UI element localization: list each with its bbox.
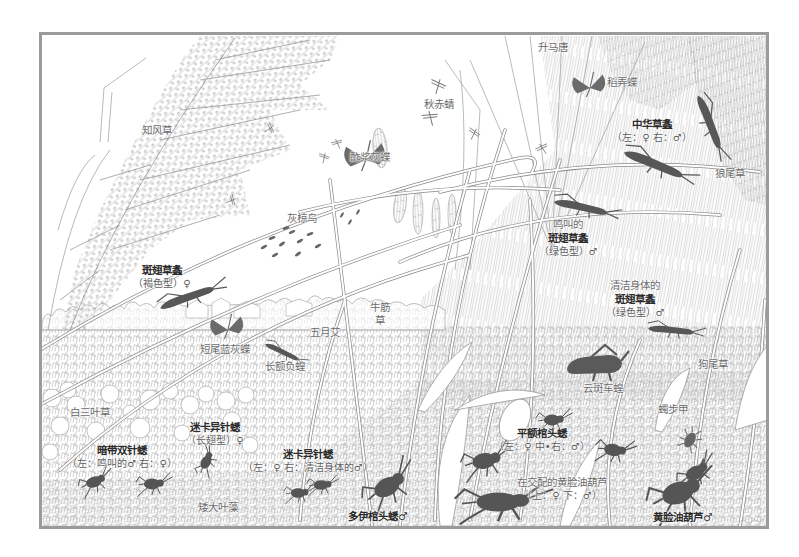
grassland-illustration	[0, 0, 799, 557]
seed-spikes	[371, 127, 456, 238]
label-daiyezao: 矮大叶藻	[198, 500, 238, 514]
label-daonongdie: 稻弄蝶	[607, 75, 637, 89]
species-qualifier: 清洁身体的	[606, 278, 665, 292]
label-niujincao: 牛筋草	[368, 301, 392, 327]
label-pinge-guantouxi: 平额棺头蟋 （左：♀ 中•右：♂）	[494, 426, 589, 454]
species-name: 中华草螽	[612, 117, 691, 131]
dragonfly-icon	[421, 110, 439, 128]
label-gouweicao: 狗尾草	[698, 357, 728, 371]
label-langweicao: 狼尾草	[715, 166, 745, 180]
label-cleaning-banchi-caozhong: 清洁身体的 斑翅草螽 （绿色型）♂	[606, 278, 665, 320]
label-change-fuhuang: 长额负蝗	[265, 359, 305, 373]
species-note: （左：♀ 中•右：♂）	[494, 440, 589, 454]
label-qiuchiqing: 秋赤蜻	[424, 97, 454, 111]
label-mika-longwing: 迷卡异针蟋 （长翅型）♀	[186, 420, 243, 448]
species-note: （左：♀ 右：清洁身体的♂）	[243, 461, 372, 475]
plume-zhifengcao	[48, 36, 340, 330]
label-zhujiang-huidie: 酢浆灰蝶	[350, 150, 390, 164]
species-name: 多伊棺头蟋♂	[348, 509, 407, 523]
dragonfly-icon	[427, 77, 447, 97]
species-name: 斑翅草螽	[539, 231, 598, 245]
dragonfly-icon	[317, 151, 331, 164]
label-shengmatang: 升马唐	[538, 40, 568, 54]
species-name: 黄脸油葫芦♂	[653, 510, 712, 524]
species-note: （长翅型）♀	[186, 434, 243, 448]
species-name: 在交配的黄脸油葫芦	[517, 475, 607, 489]
label-andai-shuangzhenxi: 暗带双针蟋 （左：鸣叫的♂ 右：♀）	[67, 443, 176, 471]
species-note: （褐色型）♀	[133, 277, 190, 291]
species-note: （左：♀ 右：♂）	[612, 131, 691, 145]
species-name: 斑翅草螽	[606, 292, 665, 306]
label-huanglian-youhulu: 黄脸油葫芦♂	[653, 510, 712, 524]
species-name: 迷卡异针蟋	[186, 420, 243, 434]
label-duoyi-guantouxi: 多伊棺头蟋♂	[348, 509, 407, 523]
species-note: （上：♀ 下：♂）	[517, 489, 607, 503]
dragonfly-icon	[330, 137, 344, 151]
species-name: 暗带双针蟋	[67, 443, 176, 457]
label-yunban-chehuang: 云斑车蝗	[583, 381, 623, 395]
label-duanwei-lanhuidie: 短尾蓝灰蝶	[200, 342, 250, 356]
label-bujia: 蠋步甲	[658, 402, 688, 416]
species-note: （绿色型）♂	[606, 306, 665, 320]
species-qualifier: 鸣叫的	[539, 217, 598, 231]
dragonfly-icon	[534, 141, 551, 158]
label-singing-banchi-caozhong: 鸣叫的 斑翅草螽 （绿色型）♂	[539, 217, 598, 259]
label-baisanyecao: 白三叶草	[70, 405, 110, 419]
label-brown-banchi-caozhong: 斑翅草螽 （褐色型）♀	[133, 263, 190, 291]
species-name: 平额棺头蟋	[494, 426, 589, 440]
label-zhifengcao: 知风草	[142, 123, 172, 137]
label-zhonghua-caozhong: 中华草螽 （左：♀ 右：♂）	[612, 117, 691, 145]
species-name: 迷卡异针蟋	[243, 447, 372, 461]
species-note: （绿色型）♂	[539, 245, 598, 259]
species-note: （左：鸣叫的♂ 右：♀）	[67, 457, 176, 471]
label-mating-huanglian-youhulu: 在交配的黄脸油葫芦 （上：♀ 下：♂）	[517, 475, 607, 503]
species-name: 斑翅草螽	[133, 263, 190, 277]
label-wuyueai: 五月艾	[310, 325, 340, 339]
label-mika-pair: 迷卡异针蟋 （左：♀ 右：清洁身体的♂）	[243, 447, 372, 475]
label-huiliangniao: 灰椋鸟	[287, 211, 317, 225]
dragonfly-icon	[465, 126, 482, 143]
